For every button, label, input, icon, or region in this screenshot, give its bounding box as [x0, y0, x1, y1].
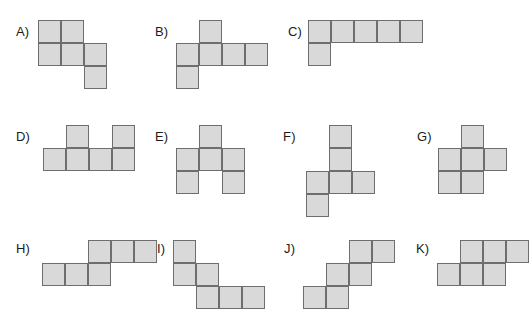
shape-cell — [461, 125, 484, 148]
shape-cell — [173, 263, 196, 286]
shape-cell — [306, 194, 329, 217]
shape-cell — [461, 148, 484, 171]
shape-cell — [111, 240, 134, 263]
shape-cell — [329, 148, 352, 171]
shape-cell — [437, 263, 460, 286]
shape-cell — [377, 20, 400, 43]
shape-cell — [219, 286, 242, 309]
shape-cell — [199, 20, 222, 43]
shape-cell — [308, 43, 331, 66]
shape-cell — [88, 263, 111, 286]
shape-cell — [84, 43, 107, 66]
answer-options-sheet: A)B)C)D)E)F)G)H)I)J)K) — [0, 0, 532, 327]
shape-cell — [354, 20, 377, 43]
shape-cell — [61, 43, 84, 66]
shape-cell — [222, 148, 245, 171]
shape-cell — [199, 148, 222, 171]
shape-cell — [349, 240, 372, 263]
shape-cell — [43, 148, 66, 171]
shape-cell — [176, 171, 199, 194]
shape-cell — [134, 240, 157, 263]
shape-cell — [42, 263, 65, 286]
shape-cell — [89, 148, 112, 171]
shape-cell — [308, 20, 331, 43]
shape-cell — [199, 43, 222, 66]
shape-cell — [484, 148, 507, 171]
shape-cell — [461, 171, 484, 194]
shape-cell — [66, 125, 89, 148]
option-label-g: G) — [417, 130, 432, 143]
shape-cell — [196, 263, 219, 286]
shape-cell — [65, 263, 88, 286]
shape-cell — [199, 125, 222, 148]
shape-cell — [438, 171, 461, 194]
shape-cell — [176, 148, 199, 171]
shape-cell — [438, 148, 461, 171]
shape-cell — [326, 263, 349, 286]
shape-cell — [242, 286, 265, 309]
shape-cell — [400, 20, 423, 43]
shape-cell — [483, 240, 506, 263]
shape-cell — [222, 171, 245, 194]
shape-cell — [460, 263, 483, 286]
shape-cell — [66, 148, 89, 171]
option-label-d: D) — [16, 130, 30, 143]
option-label-j: J) — [284, 242, 295, 255]
shape-cell — [84, 66, 107, 89]
shape-cell — [38, 43, 61, 66]
option-label-h: H) — [16, 242, 30, 255]
shape-cell — [196, 286, 219, 309]
shape-cell — [88, 240, 111, 263]
shape-cell — [245, 43, 268, 66]
option-label-a: A) — [16, 25, 29, 38]
shape-cell — [173, 240, 196, 263]
shape-cell — [329, 171, 352, 194]
shape-cell — [303, 286, 326, 309]
option-label-k: K) — [416, 242, 429, 255]
shape-cell — [176, 43, 199, 66]
shape-cell — [112, 148, 135, 171]
shape-cell — [460, 240, 483, 263]
shape-cell — [326, 286, 349, 309]
shape-cell — [506, 240, 529, 263]
shape-cell — [306, 171, 329, 194]
option-label-b: B) — [155, 25, 168, 38]
shape-cell — [331, 20, 354, 43]
option-label-f: F) — [283, 130, 296, 143]
shape-cell — [349, 263, 372, 286]
shape-cell — [112, 125, 135, 148]
shape-cell — [61, 20, 84, 43]
shape-cell — [483, 263, 506, 286]
shape-cell — [352, 171, 375, 194]
option-label-i: I) — [157, 242, 165, 255]
option-label-c: C) — [288, 25, 302, 38]
shape-cell — [372, 240, 395, 263]
option-label-e: E) — [155, 130, 168, 143]
shape-cell — [176, 66, 199, 89]
shape-cell — [38, 20, 61, 43]
shape-cell — [222, 43, 245, 66]
shape-cell — [329, 125, 352, 148]
